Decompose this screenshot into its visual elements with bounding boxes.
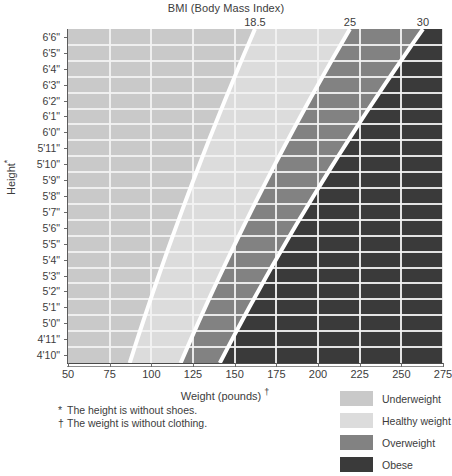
legend-label-healthy-weight: Healthy weight (382, 415, 451, 427)
y-axis-tick-mark (64, 101, 67, 102)
y-axis-tick-mark (64, 307, 67, 308)
y-axis-tick-63: 6'3" (43, 79, 60, 91)
y-axis-tick-50: 5'0" (43, 317, 60, 329)
y-axis-tick-mark (64, 291, 67, 292)
y-axis-tick-mark (64, 37, 67, 38)
y-axis-tick-mark (64, 148, 67, 149)
legend-swatch-obese (340, 457, 373, 472)
x-axis-tick-50: 50 (62, 368, 74, 380)
y-axis-tick-57: 5'7" (43, 206, 60, 218)
x-axis-title: Weight (pounds) † (135, 387, 315, 402)
bmi-band-layer (68, 29, 443, 363)
x-axis-tick-mark (401, 363, 402, 367)
y-axis-tick-51: 5'1" (43, 301, 60, 313)
bmi-tick-label-18-5: 18.5 (244, 16, 265, 28)
footnote-text: The weight is without clothing. (67, 417, 207, 429)
y-axis-tick-510: 5'10" (37, 158, 60, 170)
x-axis-tick-mark (443, 363, 444, 367)
x-axis-tick-175: 175 (267, 368, 285, 380)
y-axis-tick-mark (64, 260, 67, 261)
y-axis-tick-56: 5'6" (43, 222, 60, 234)
legend-item-underweight: Underweight (340, 388, 451, 409)
x-axis-tick-mark (360, 363, 361, 367)
bmi-tick-label-30: 30 (417, 16, 429, 28)
x-axis-tick-mark (151, 363, 152, 367)
x-axis-tick-75: 75 (104, 368, 116, 380)
y-axis-tick-mark (64, 180, 67, 181)
y-axis-tick-labels: 6'6"6'5"6'4"6'3"6'2"6'1"6'0"5'11"5'10"5'… (0, 0, 64, 476)
y-axis-tick-mark (64, 196, 67, 197)
footnote-2: †The weight is without clothing. (58, 417, 207, 430)
x-axis-tick-mark (193, 363, 194, 367)
footnote-text: The height is without shoes. (67, 404, 197, 416)
y-axis-tick-mark (64, 323, 67, 324)
footnote-list: *The height is without shoes.†The weight… (58, 404, 207, 430)
y-axis-title-footnote-mark: * (2, 160, 12, 164)
x-axis-tick-150: 150 (225, 368, 243, 380)
legend-label-obese: Obese (382, 459, 413, 471)
x-axis-tick-mark (318, 363, 319, 367)
y-axis-tick-66: 6'6" (43, 31, 60, 43)
x-axis-tick-100: 100 (142, 368, 160, 380)
y-axis-tick-52: 5'2" (43, 285, 60, 297)
y-axis-tick-65: 6'5" (43, 47, 60, 59)
y-axis-tick-55: 5'5" (43, 238, 60, 250)
legend-item-overweight: Overweight (340, 432, 451, 453)
y-axis-tick-mark (64, 244, 67, 245)
x-axis-tick-225: 225 (350, 368, 368, 380)
y-axis-tick-mark (64, 228, 67, 229)
y-axis-tick-511: 5'11" (38, 142, 60, 154)
y-axis-tick-53: 5'3" (43, 270, 60, 282)
footnote-mark: * (58, 404, 67, 417)
y-axis-tick-mark (64, 85, 67, 86)
y-axis-tick-54: 5'4" (43, 254, 60, 266)
y-axis-tick-mark (64, 339, 67, 340)
x-axis-title-text: Weight (pounds) (181, 390, 262, 402)
x-axis-tick-mark (235, 363, 236, 367)
y-axis-tick-64: 6'4" (43, 63, 60, 75)
legend-label-underweight: Underweight (382, 393, 441, 405)
y-axis-tick-411: 4'11" (38, 333, 60, 345)
x-axis-tick-mark (68, 363, 69, 367)
legend-swatch-overweight (340, 435, 373, 450)
legend-item-healthy-weight: Healthy weight (340, 410, 451, 431)
x-axis-tick-125: 125 (184, 368, 202, 380)
plot-axis-line-bottom-shadow (67, 366, 444, 367)
footnote-1: *The height is without shoes. (58, 404, 207, 417)
y-axis-tick-mark (64, 212, 67, 213)
y-axis-tick-mark (64, 355, 67, 356)
chart-title: BMI (Body Mass Index) (0, 2, 452, 14)
y-axis-title: Height* (2, 160, 17, 195)
y-axis-tick-mark (64, 164, 67, 165)
y-axis-tick-60: 6'0" (43, 126, 60, 138)
y-axis-tick-62: 6'2" (43, 95, 60, 107)
y-axis-tick-mark (64, 69, 67, 70)
y-axis-tick-61: 6'1" (43, 110, 60, 122)
y-axis-tick-59: 5'9" (43, 174, 60, 186)
plot-area (68, 29, 443, 363)
y-axis-tick-mark (64, 132, 67, 133)
legend-label-overweight: Overweight (382, 437, 435, 449)
y-axis-tick-mark (64, 116, 67, 117)
legend-swatch-underweight (340, 391, 373, 406)
footnote-mark: † (58, 417, 67, 430)
legend: UnderweightHealthy weightOverweightObese (340, 388, 451, 476)
y-axis-title-text: Height (5, 163, 17, 195)
x-axis-tick-mark (110, 363, 111, 367)
x-axis-title-footnote-mark: † (264, 387, 269, 397)
y-axis-tick-58: 5'8" (43, 190, 60, 202)
x-axis-tick-200: 200 (309, 368, 327, 380)
y-axis-tick-410: 4'10" (37, 349, 60, 361)
plot-axis-line-bottom (67, 363, 444, 364)
x-axis-tick-275: 275 (434, 368, 452, 380)
legend-item-obese: Obese (340, 454, 451, 475)
bmi-chart: BMI (Body Mass Index) 18.52530 6'6"6'5"6… (0, 0, 452, 476)
legend-swatch-healthy-weight (340, 413, 373, 428)
x-axis-tick-250: 250 (392, 368, 410, 380)
y-axis-tick-mark (64, 53, 67, 54)
x-axis-tick-mark (276, 363, 277, 367)
y-axis-tick-mark (64, 276, 67, 277)
bmi-tick-label-25: 25 (344, 16, 356, 28)
